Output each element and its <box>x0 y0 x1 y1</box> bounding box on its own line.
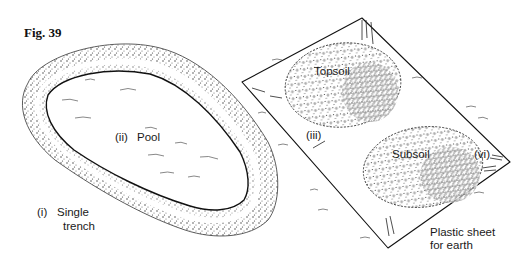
pool-label: Pool <box>137 131 160 144</box>
subsoil-number-label: (vi) <box>474 148 490 161</box>
plastic-sheet-label-line1: Plastic sheet <box>430 226 495 239</box>
trench-label-line1: Single <box>57 206 89 219</box>
plastic-sheet-label-line2: for earth <box>430 239 473 252</box>
topsoil-label: Topsoil <box>314 65 350 78</box>
subsoil-label: Subsoil <box>392 148 430 161</box>
topsoil-number-label: (iii) <box>306 129 321 142</box>
plastic-sheet-group <box>242 18 510 248</box>
trench-label-line2: trench <box>63 220 95 233</box>
trench-number-label: (i) <box>37 206 47 219</box>
pool-number-label: (ii) <box>115 131 128 144</box>
